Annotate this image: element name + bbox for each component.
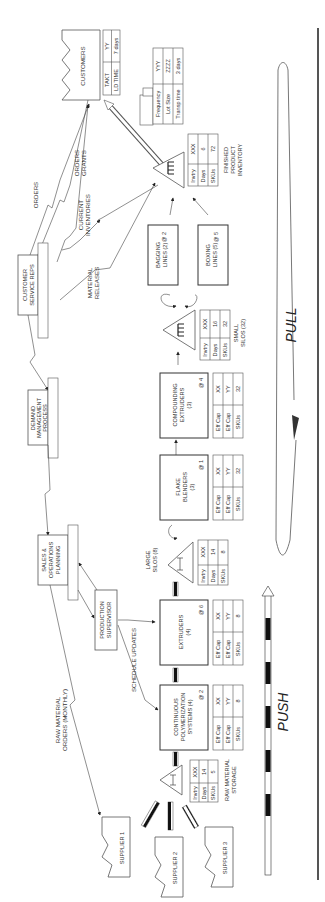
push-arrow-icon [173, 582, 178, 596]
boxing-lines-node: BOXING LINES (5) @ 5 [198, 225, 228, 285]
svg-text:RAW MATERIAL: RAW MATERIAL [54, 696, 61, 743]
svg-text:PROCESS: PROCESS [42, 404, 48, 432]
finished-inventory: Invtry XXX Days 6 SKUs 72 FINISHED PRODU… [153, 134, 243, 188]
svg-text:YY: YY [225, 697, 231, 705]
customer-service-node: CUSTOMER SERVICE REPS [18, 243, 48, 338]
svg-text:Eff Cap: Eff Cap [225, 413, 231, 432]
svg-text:ORDERS: ORDERS [32, 182, 39, 208]
svg-text:Lot Size: Lot Size [165, 94, 171, 114]
svg-text:Eff Cap: Eff Cap [215, 640, 221, 659]
svg-text:SUPPLIER 3: SUPPLIER 3 [222, 842, 228, 874]
svg-text:XX: XX [215, 385, 221, 393]
bagging-lines-node: BAGGING LINES (2) @ 2 [148, 225, 178, 285]
svg-text:ORDERS: ORDERS [73, 150, 80, 176]
supplier-1-node: SUPPLIER 1 [102, 817, 130, 877]
svg-text:XXX: XXX [202, 318, 208, 329]
svg-text:RELEASES: RELEASES [93, 267, 100, 300]
customers-label: CUSTOMERS [79, 46, 86, 85]
svg-text:INVENTORIES: INVENTORIES [84, 194, 91, 236]
svg-text:GRANTS: GRANTS [80, 150, 87, 176]
extruders-node: EXTRUDERS (4) @ 6 Eff Cap XX Eff Cap YY … [160, 600, 243, 665]
customers-node: CUSTOMERS TAKT YY LD TIME 7 days [62, 30, 120, 100]
svg-text:OPERATIONS: OPERATIONS [48, 542, 54, 579]
svg-text:6: 6 [200, 147, 206, 150]
svg-text:LARGE: LARGE [145, 550, 151, 569]
svg-text:LINES (5): LINES (5) [212, 243, 218, 268]
svg-text:Eff Cap: Eff Cap [215, 413, 221, 432]
sop-node: SALES & OPERATIONS PLANNING [38, 525, 78, 600]
svg-text:CUSTOMER: CUSTOMER [22, 269, 28, 301]
svg-text:32: 32 [222, 321, 228, 327]
svg-text:14: 14 [210, 549, 216, 555]
svg-text:SALES &: SALES & [41, 548, 47, 572]
svg-text:BLENDERS: BLENDERS [182, 472, 188, 502]
svg-text:SKUs: SKUs [222, 343, 228, 358]
svg-text:(3): (3) [189, 483, 195, 490]
svg-text:Invtry: Invtry [190, 169, 196, 183]
svg-text:XX: XX [215, 697, 221, 705]
svg-text:YY: YY [104, 42, 110, 50]
svg-text:3 days: 3 days [175, 58, 181, 75]
push-arrow-icon [141, 801, 159, 828]
svg-text:COMPOUNDING: COMPOUNDING [172, 383, 178, 426]
svg-text:@ 6: @ 6 [198, 605, 204, 615]
svg-text:SYSTEMS (4): SYSTEMS (4) [187, 699, 193, 734]
svg-text:@ 2: @ 2 [198, 690, 204, 700]
compounding-extruders-node: COMPOUNDING EXTRUDERS (3) @ 4 Eff Cap XX… [160, 373, 243, 438]
svg-text:Invtry: Invtry [200, 569, 206, 583]
svg-text:EXTRUDERS: EXTRUDERS [178, 614, 184, 649]
push-arrow-icon [182, 805, 198, 828]
svg-text:Eff Cap: Eff Cap [225, 640, 231, 659]
production-supervisor-node: PRODUCTION SUPERVISOR [95, 590, 117, 650]
svg-text:XXX: XXX [200, 546, 206, 557]
svg-text:PRODUCTION: PRODUCTION [99, 601, 105, 639]
svg-text:8: 8 [220, 550, 226, 553]
svg-text:(3): (3) [186, 401, 192, 408]
svg-text:Invtry: Invtry [202, 343, 208, 357]
svg-text:SKUs: SKUs [220, 569, 226, 584]
svg-text:@ 1: @ 1 [198, 460, 204, 470]
svg-text:SKUs: SKUs [235, 642, 241, 657]
svg-text:14: 14 [201, 769, 207, 775]
push-label: PUSH [275, 692, 291, 732]
svg-text:5: 5 [210, 770, 216, 773]
svg-text:32: 32 [235, 468, 241, 474]
pull-label: PULL [283, 307, 299, 342]
svg-text:TAKT: TAKT [104, 72, 110, 86]
svg-text:XXX: XXX [190, 143, 196, 154]
svg-text:Days: Days [210, 569, 216, 582]
svg-text:@ 4: @ 4 [198, 378, 204, 388]
value-stream-map: CUSTOMERS TAKT YY LD TIME 7 days Frequen… [0, 0, 325, 902]
svg-text:ORDERS (MONTHLY): ORDERS (MONTHLY) [61, 689, 68, 751]
svg-text:Days: Days [212, 343, 218, 356]
svg-text:RAW MATERIAL: RAW MATERIAL [224, 759, 230, 801]
supplier-2-node: SUPPLIER 2 [155, 837, 183, 897]
svg-text:POLYMERIZATION: POLYMERIZATION [180, 693, 186, 742]
svg-text:XXX: XXX [192, 766, 198, 777]
svg-text:STORAGE: STORAGE [231, 766, 237, 794]
svg-text:CURRENT: CURRENT [77, 200, 84, 230]
svg-text:FINISHED: FINISHED [223, 147, 229, 173]
svg-text:YYY: YYY [155, 60, 161, 71]
flake-blenders-node: FLAKE BLENDERS (3) @ 1 Eff Cap XX Eff Ca… [160, 455, 243, 520]
svg-text:SKUs: SKUs [235, 497, 241, 512]
svg-text:CONTINUOUS: CONTINUOUS [173, 698, 179, 736]
continuous-polymerization-node: CONTINUOUS POLYMERIZATION SYSTEMS (4) @ … [160, 685, 243, 750]
svg-text:8: 8 [235, 699, 241, 702]
svg-text:PRODUCT: PRODUCT [230, 146, 236, 174]
push-arrow-icon [168, 802, 173, 830]
svg-text:YY: YY [225, 385, 231, 393]
svg-text:Frequency: Frequency [155, 91, 161, 118]
svg-text:SERVICE REPS: SERVICE REPS [29, 264, 35, 306]
svg-text:Eff Cap: Eff Cap [215, 495, 221, 514]
svg-text:EXTRUDERS: EXTRUDERS [179, 387, 185, 422]
svg-text:PLANNING: PLANNING [55, 546, 61, 575]
small-silos: Invtry XXX Days 16 SKUs 32 SMALL SILOS (… [163, 310, 246, 360]
svg-text:SUPPLIER 1: SUPPLIER 1 [119, 832, 125, 864]
svg-text:YY: YY [225, 612, 231, 620]
orders-flow [30, 104, 89, 255]
svg-text:Days: Days [200, 169, 206, 182]
svg-text:LD TIME: LD TIME [113, 69, 119, 91]
svg-text:16: 16 [212, 321, 218, 327]
svg-text:Eff Cap: Eff Cap [225, 495, 231, 514]
